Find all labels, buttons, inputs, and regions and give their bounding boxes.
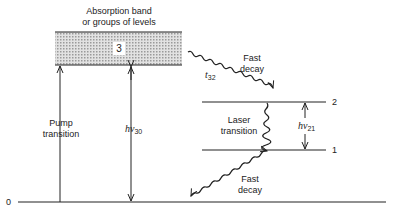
band-title: Absorption band or groups of levels: [76, 6, 162, 28]
fast-decay-top-label: Fast decay: [232, 53, 272, 75]
fast-decay-bottom-line1: Fast: [230, 174, 270, 185]
pump-line2: transition: [36, 129, 86, 140]
level-0-label: 0: [6, 197, 11, 207]
hv21-label: hν21: [298, 120, 315, 134]
laser-line1: Laser: [217, 115, 261, 126]
band-title-line2: or groups of levels: [76, 17, 162, 28]
level-3-label: 3: [113, 42, 125, 55]
t32-sub: 32: [208, 74, 216, 81]
fast-decay-bottom-label: Fast decay: [230, 174, 270, 196]
fast-decay-top-line2: decay: [232, 64, 272, 75]
level-1-label: 1: [332, 145, 337, 155]
fast-decay-bottom-line2: decay: [230, 185, 270, 196]
fast-decay-top-line1: Fast: [232, 53, 272, 64]
pump-line1: Pump: [36, 118, 86, 129]
level-2-label: 2: [332, 97, 337, 107]
band-title-line1: Absorption band: [76, 6, 162, 17]
hv30-sub: 30: [134, 128, 142, 135]
pump-transition-label: Pump transition: [36, 118, 86, 140]
laser-transition-label: Laser transition: [217, 115, 261, 137]
hv21-sub: 21: [307, 125, 315, 132]
hv30-label: hν30: [125, 123, 142, 137]
laser-line2: transition: [217, 126, 261, 137]
laser-wave: [262, 103, 271, 151]
t32-label: t32: [205, 69, 216, 83]
